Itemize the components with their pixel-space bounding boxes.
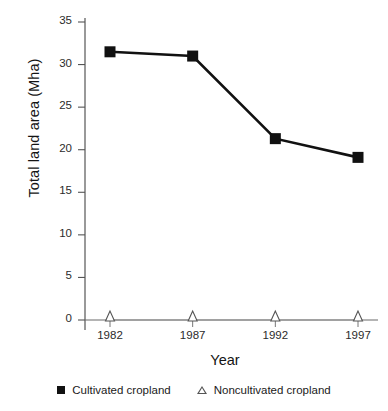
legend-label-noncultivated-cropland: Noncultivated cropland bbox=[214, 384, 331, 396]
x-tick-label: 1987 bbox=[168, 329, 218, 341]
y-tick-label: 20 bbox=[46, 142, 72, 154]
cultivated-cropland-line bbox=[110, 52, 358, 158]
data-point-marker bbox=[105, 46, 116, 57]
data-point-marker bbox=[106, 311, 115, 321]
x-axis-title: Year bbox=[60, 352, 388, 368]
y-tick-label: 35 bbox=[46, 14, 72, 26]
legend-item-cultivated-cropland[interactable]: Cultivated cropland bbox=[57, 384, 170, 396]
legend-label-cultivated-cropland: Cultivated cropland bbox=[72, 384, 170, 396]
data-point-marker bbox=[188, 311, 197, 321]
y-tick-label: 10 bbox=[46, 227, 72, 239]
legend-item-noncultivated-cropland[interactable]: Noncultivated cropland bbox=[197, 384, 331, 396]
data-point-marker bbox=[353, 152, 364, 163]
open-triangle-marker-icon bbox=[197, 386, 207, 394]
data-point-marker bbox=[270, 133, 281, 144]
filled-square-marker-icon bbox=[57, 386, 65, 394]
x-tick-label: 1982 bbox=[85, 329, 135, 341]
data-point-marker bbox=[271, 311, 280, 321]
chart-legend: Cultivated cropland Noncultivated cropla… bbox=[0, 384, 388, 396]
y-tick-label: 25 bbox=[46, 99, 72, 111]
x-tick-label: 1997 bbox=[333, 329, 383, 341]
x-axis-ticks bbox=[110, 320, 358, 327]
y-axis-ticks bbox=[78, 22, 85, 320]
y-tick-label: 15 bbox=[46, 184, 72, 196]
cultivated-cropland-markers bbox=[105, 46, 364, 163]
x-tick-label: 1992 bbox=[250, 329, 300, 341]
data-point-marker bbox=[187, 51, 198, 62]
chart-figure: Total land area (Mha) 05101520253035 198… bbox=[0, 0, 388, 411]
y-tick-label: 0 bbox=[46, 312, 72, 324]
y-tick-label: 5 bbox=[46, 269, 72, 281]
data-point-marker bbox=[354, 311, 363, 321]
y-tick-label: 30 bbox=[46, 57, 72, 69]
